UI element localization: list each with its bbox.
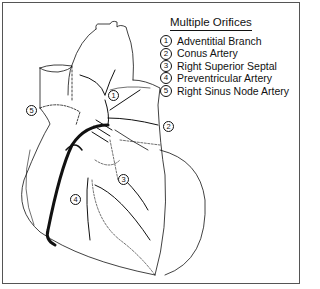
callout-1: 1 [108,90,119,101]
legend-item: 5 Right Sinus Node Artery [160,85,289,97]
legend: Multiple Orifices 1 Adventitial Branch 2… [160,12,289,97]
legend-item: 2 Conus Artery [160,47,289,59]
number-badge: 1 [160,35,172,47]
legend-label: Right Sinus Node Artery [177,85,289,97]
number-badge: 5 [160,85,172,97]
legend-label: Right Superior Septal [177,60,277,72]
legend-label: Preventricular Artery [177,72,272,84]
legend-label: Conus Artery [177,47,238,59]
number-badge: 3 [160,60,172,72]
legend-item: 4 Preventricular Artery [160,72,289,84]
legend-item: 1 Adventitial Branch [160,35,289,47]
callout-5: 5 [26,105,37,116]
callout-4: 4 [70,194,81,205]
legend-title: Multiple Orifices [170,16,252,31]
callout-3: 3 [118,174,129,185]
callout-2: 2 [163,121,174,132]
legend-item: 3 Right Superior Septal [160,60,289,72]
legend-label: Adventitial Branch [177,35,262,47]
number-badge: 4 [160,72,172,84]
number-badge: 2 [160,48,172,60]
